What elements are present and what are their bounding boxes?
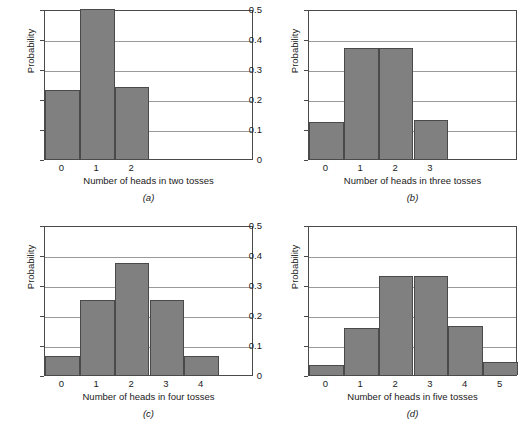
- bar: [80, 9, 115, 159]
- y-tick-mark: [304, 160, 308, 161]
- x-axis-label-c: Number of heads in four tosses: [44, 391, 253, 402]
- y-tick-mark: [304, 40, 308, 41]
- bar: [80, 300, 115, 375]
- panel-caption-c: (c): [44, 408, 253, 419]
- bar: [115, 87, 150, 159]
- y-tick-mark: [40, 100, 44, 101]
- bar: [379, 276, 414, 375]
- y-tick-label: 0.2: [222, 95, 262, 105]
- x-tick-label: 0: [315, 379, 335, 389]
- x-tick-label: 1: [86, 163, 106, 173]
- x-axis-label-b: Number of heads in three tosses: [308, 175, 517, 186]
- plot-area-b: [308, 10, 517, 160]
- y-tick-label: 0.1: [222, 341, 262, 351]
- y-tick-label: 0: [222, 371, 262, 381]
- y-tick-mark: [304, 226, 308, 227]
- bar: [448, 326, 483, 376]
- bar: [344, 328, 379, 375]
- x-axis-label-d: Number of heads in five tosses: [308, 391, 517, 402]
- y-tick-label: 0.3: [222, 65, 262, 75]
- bar-series: [45, 11, 252, 159]
- bar-series: [309, 11, 516, 159]
- x-tick-label: 2: [385, 163, 405, 173]
- x-tick-label: 0: [51, 379, 71, 389]
- y-tick-mark: [304, 316, 308, 317]
- figure-grid: Probability Number of heads in two tosse…: [0, 0, 528, 433]
- bar: [45, 356, 80, 375]
- bar: [379, 48, 414, 159]
- y-axis-label-a: Probability: [26, 16, 36, 86]
- y-tick-label: 0.3: [222, 281, 262, 291]
- page-bleed-text: [0, 427, 528, 433]
- x-tick-label: 2: [385, 379, 405, 389]
- y-axis-label-d: Probability: [290, 232, 300, 302]
- y-tick-mark: [40, 10, 44, 11]
- y-tick-mark: [40, 40, 44, 41]
- chart-panel-b: Probability Number of heads in three tos…: [264, 0, 528, 216]
- y-tick-mark: [304, 376, 308, 377]
- x-tick-label: 1: [86, 379, 106, 389]
- x-tick-label: 2: [121, 379, 141, 389]
- y-tick-label: 0.5: [222, 221, 262, 231]
- x-tick-label: 4: [455, 379, 475, 389]
- x-tick-label: 1: [350, 379, 370, 389]
- y-tick-mark: [40, 70, 44, 71]
- chart-panel-c: Probability Number of heads in four toss…: [0, 216, 264, 433]
- y-axis-label-b: Probability: [290, 16, 300, 86]
- bar: [150, 300, 185, 375]
- y-tick-mark: [304, 130, 308, 131]
- y-tick-mark: [40, 160, 44, 161]
- chart-panel-d: Probability Number of heads in five toss…: [264, 216, 528, 433]
- y-tick-mark: [40, 256, 44, 257]
- y-tick-mark: [40, 226, 44, 227]
- x-axis-label-a: Number of heads in two tosses: [44, 175, 253, 186]
- y-tick-mark: [40, 130, 44, 131]
- panel-caption-b: (b): [308, 192, 517, 203]
- x-tick-label: 0: [315, 163, 335, 173]
- bar: [344, 48, 379, 159]
- bar: [414, 120, 449, 159]
- bar: [414, 276, 449, 375]
- bar: [309, 122, 344, 160]
- y-tick-label: 0.1: [222, 125, 262, 135]
- x-tick-label: 1: [350, 163, 370, 173]
- y-tick-mark: [304, 70, 308, 71]
- plot-area-a: [44, 10, 253, 160]
- x-tick-label: 0: [51, 163, 71, 173]
- y-tick-mark: [304, 346, 308, 347]
- bar: [309, 365, 344, 376]
- x-tick-label: 2: [121, 163, 141, 173]
- x-tick-label: 3: [156, 379, 176, 389]
- y-tick-mark: [40, 316, 44, 317]
- bar-series: [309, 227, 516, 375]
- plot-area-d: [308, 226, 517, 376]
- bar: [115, 263, 150, 376]
- panel-caption-d: (d): [308, 408, 517, 419]
- x-tick-label: 4: [191, 379, 211, 389]
- bar-series: [45, 227, 252, 375]
- bar: [45, 90, 80, 159]
- y-tick-label: 0.4: [222, 35, 262, 45]
- x-tick-label: 3: [420, 163, 440, 173]
- y-tick-mark: [40, 376, 44, 377]
- y-tick-mark: [304, 10, 308, 11]
- y-axis-label-c: Probability: [26, 232, 36, 302]
- chart-panel-a: Probability Number of heads in two tosse…: [0, 0, 264, 216]
- x-tick-label: 3: [420, 379, 440, 389]
- y-tick-mark: [40, 286, 44, 287]
- y-tick-mark: [304, 100, 308, 101]
- x-tick-label: 5: [490, 379, 510, 389]
- plot-area-c: [44, 226, 253, 376]
- y-tick-mark: [304, 286, 308, 287]
- y-tick-label: 0: [222, 155, 262, 165]
- y-tick-mark: [304, 256, 308, 257]
- y-tick-label: 0.4: [222, 251, 262, 261]
- bar: [184, 356, 219, 376]
- y-tick-label: 0.2: [222, 311, 262, 321]
- panel-caption-a: (a): [44, 192, 253, 203]
- y-tick-label: 0.5: [222, 5, 262, 15]
- y-tick-mark: [40, 346, 44, 347]
- bar: [483, 362, 518, 375]
